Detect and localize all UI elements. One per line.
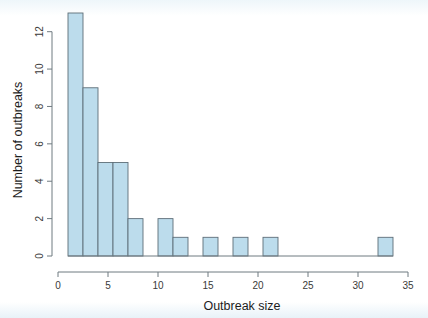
x-tick-label: 10 bbox=[152, 280, 164, 291]
x-axis-ticks bbox=[58, 272, 408, 277]
histogram-bar bbox=[173, 237, 188, 256]
histogram-bar bbox=[203, 237, 218, 256]
x-tick-label: 20 bbox=[252, 280, 264, 291]
histogram-bar bbox=[68, 13, 83, 256]
histogram-bar bbox=[233, 237, 248, 256]
x-tick-label: 0 bbox=[55, 280, 61, 291]
histogram-bar bbox=[113, 163, 128, 256]
x-axis: 05101520253035 bbox=[55, 272, 414, 291]
x-axis-tick-labels: 05101520253035 bbox=[55, 280, 414, 291]
y-axis-ticks bbox=[47, 32, 52, 256]
histogram-canvas: 05101520253035 024681012 Outbreak size N… bbox=[0, 0, 428, 318]
histogram-bar bbox=[158, 219, 173, 256]
x-tick-label: 30 bbox=[352, 280, 364, 291]
y-tick-label: 2 bbox=[34, 215, 45, 221]
y-axis-tick-labels: 024681012 bbox=[34, 26, 45, 259]
y-tick-label: 4 bbox=[34, 178, 45, 184]
x-axis-title: Outbreak size bbox=[203, 299, 280, 313]
y-axis-title: Number of outbreaks bbox=[11, 82, 25, 199]
y-tick-label: 8 bbox=[34, 103, 45, 109]
bars-group bbox=[68, 13, 393, 256]
x-tick-label: 5 bbox=[105, 280, 111, 291]
x-tick-label: 35 bbox=[402, 280, 414, 291]
histogram-bar bbox=[263, 237, 278, 256]
y-tick-label: 0 bbox=[34, 253, 45, 259]
y-axis: 024681012 bbox=[34, 26, 52, 259]
y-tick-label: 10 bbox=[34, 63, 45, 75]
x-tick-label: 25 bbox=[302, 280, 314, 291]
histogram-figure: 05101520253035 024681012 Outbreak size N… bbox=[0, 0, 428, 318]
histogram-bar bbox=[128, 219, 143, 256]
histogram-bar bbox=[98, 163, 113, 256]
x-tick-label: 15 bbox=[202, 280, 214, 291]
y-tick-label: 6 bbox=[34, 141, 45, 147]
histogram-bar bbox=[83, 88, 98, 256]
y-tick-label: 12 bbox=[34, 26, 45, 38]
histogram-bar bbox=[378, 237, 393, 256]
